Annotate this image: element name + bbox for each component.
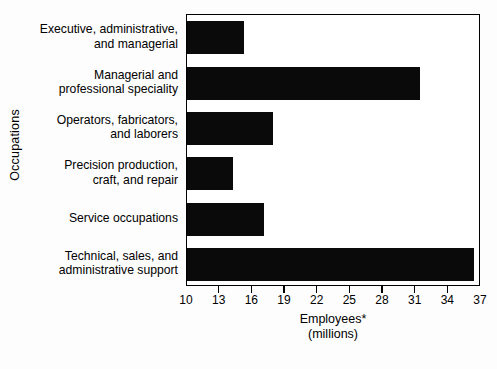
bar — [187, 248, 474, 281]
x-axis-tick-labels: 10131619222528313437 — [186, 293, 480, 309]
category-label: Managerial and professional speciality — [28, 68, 178, 97]
x-axis-title: Employees* (millions) — [186, 312, 480, 342]
tick-label: 13 — [212, 293, 225, 307]
y-axis-title-text: Occupations — [8, 109, 22, 181]
tick-label: 10 — [179, 293, 192, 307]
tick-label: 31 — [408, 293, 421, 307]
tick-label: 16 — [245, 293, 258, 307]
tick-label: 22 — [310, 293, 323, 307]
tick-label: 34 — [441, 293, 454, 307]
bar-chart-figure: Occupations Executive, administrative, a… — [0, 0, 497, 369]
tick-mark — [414, 286, 416, 293]
bar — [187, 21, 244, 54]
tick-mark — [447, 286, 449, 293]
tick-mark — [349, 286, 351, 293]
tick-label: 28 — [375, 293, 388, 307]
tick-mark — [218, 286, 220, 293]
category-label: Precision production, craft, and repair — [28, 158, 178, 187]
category-label: Technical, sales, and administrative sup… — [28, 249, 178, 278]
bar — [187, 157, 233, 190]
y-axis-title: Occupations — [0, 0, 30, 290]
tick-mark — [381, 286, 383, 293]
bar — [187, 203, 264, 236]
tick-mark — [251, 286, 253, 293]
x-axis-title-line2: (millions) — [186, 327, 480, 342]
category-label: Operators, fabricators, and laborers — [28, 113, 178, 142]
tick-mark — [283, 286, 285, 293]
tick-label: 19 — [277, 293, 290, 307]
x-axis-title-line1: Employees* — [300, 312, 367, 326]
tick-label: 37 — [473, 293, 486, 307]
plot-area — [186, 14, 480, 286]
bar — [187, 67, 420, 100]
category-label: Service occupations — [28, 211, 178, 226]
category-label: Executive, administrative, and manageria… — [28, 22, 178, 51]
tick-label: 25 — [343, 293, 356, 307]
bar — [187, 112, 273, 145]
category-label-list: Executive, administrative, and manageria… — [30, 14, 182, 286]
tick-mark — [316, 286, 318, 293]
